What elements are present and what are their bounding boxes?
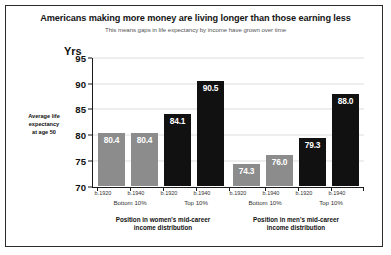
- panel-caption-women: Position in women's mid-career income di…: [95, 216, 231, 233]
- bar-value-label: 90.5: [197, 83, 224, 93]
- y-tick-label-75: 75: [60, 155, 86, 166]
- bar-men-bottom-1940[interactable]: 76.0: [266, 155, 293, 186]
- panel-caption-women-line-2: income distribution: [95, 224, 231, 232]
- bar-value-label: 80.4: [131, 135, 158, 145]
- decile-label-women-bottom: Bottom 10%: [97, 199, 163, 206]
- chart-subtitle: This means gaps in life expectancy by in…: [0, 26, 391, 33]
- bar-value-label: 79.3: [299, 140, 326, 150]
- y-axis-caption-line-2: expectancy: [10, 120, 78, 128]
- panel-caption-men-line-2: income distribution: [228, 224, 364, 232]
- chart-figure: Americans making more money are living l…: [0, 0, 391, 255]
- decile-label-women-top: Top 10%: [163, 199, 229, 206]
- x-label-men-top-1920: b.1920: [286, 190, 323, 196]
- decile-label-men-top: Top 10%: [298, 199, 364, 206]
- bar-women-bottom-1940[interactable]: 80.4: [131, 133, 158, 186]
- x-label-women-top-1920: b.1920: [151, 190, 188, 196]
- bar-women-top-1940[interactable]: 90.5: [197, 81, 224, 186]
- x-label-men-top-1940: b.1940: [319, 190, 356, 196]
- x-label-men-bottom-1920: b.1920: [220, 190, 257, 196]
- x-label-men-bottom-1940: b.1940: [253, 190, 290, 196]
- bar-men-top-1920[interactable]: 79.3: [299, 138, 326, 186]
- y-tick-label-90: 90: [60, 78, 86, 89]
- plot-area: 80.4 80.4 84.1 90.5 74.3 76.0 79.3 88.0: [92, 58, 364, 186]
- bar-women-bottom-1920[interactable]: 80.4: [98, 133, 125, 186]
- x-label-women-top-1940: b.1940: [184, 190, 221, 196]
- bar-value-label: 80.4: [98, 135, 125, 145]
- chart-title: Americans making more money are living l…: [0, 13, 391, 23]
- y-tick-label-95: 95: [60, 53, 86, 64]
- y-tick-label-85: 85: [60, 104, 86, 115]
- y-tick-label-70: 70: [60, 181, 86, 192]
- bar-value-label: 76.0: [266, 157, 293, 167]
- bar-value-label: 74.3: [233, 166, 260, 176]
- x-axis-line: [92, 187, 364, 188]
- bar-women-top-1920[interactable]: 84.1: [164, 114, 191, 186]
- x-label-women-bottom-1920: b.1920: [85, 190, 122, 196]
- panel-caption-men-line-1: Position in men's mid-career: [228, 216, 364, 224]
- bar-men-bottom-1920[interactable]: 74.3: [233, 164, 260, 186]
- panel-caption-women-line-1: Position in women's mid-career: [95, 216, 231, 224]
- x-label-women-bottom-1940: b.1940: [118, 190, 155, 196]
- bar-value-label: 84.1: [164, 116, 191, 126]
- x-tick-mark-8: [363, 188, 364, 191]
- panel-caption-men: Position in men's mid-career income dist…: [228, 216, 364, 233]
- decile-label-men-bottom: Bottom 10%: [232, 199, 298, 206]
- bar-value-label: 88.0: [332, 96, 359, 106]
- y-tick-label-80: 80: [60, 130, 86, 141]
- bar-men-top-1940[interactable]: 88.0: [332, 94, 359, 187]
